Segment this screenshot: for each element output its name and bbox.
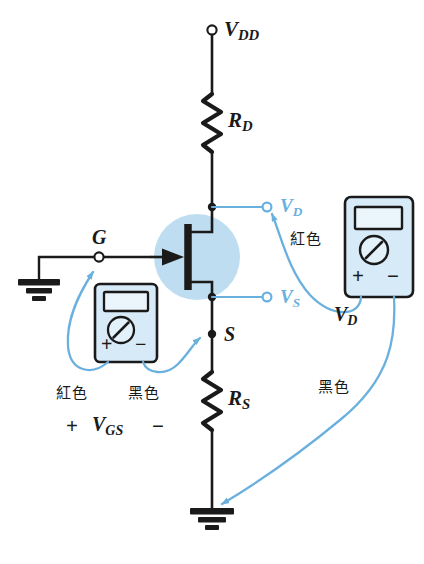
ground-symbol-bottom [190, 508, 234, 530]
gate-meter-plus-text: + [101, 333, 112, 355]
drain-meter-plus: + [352, 264, 364, 289]
label-vgs-reading: VGS [92, 414, 123, 438]
label-vd-reading: VD [334, 304, 357, 328]
figure-canvas: VDD RD RS G S VD VS 紅色 黑色 VD + − + [0, 0, 424, 564]
label-vd-reading-main: V [334, 303, 347, 325]
label-vdd: VDD [224, 19, 259, 43]
vs-probe-terminal[interactable] [263, 293, 272, 302]
vdd-terminal[interactable] [207, 25, 216, 34]
label-vs-probe-sub: S [293, 295, 300, 310]
label-gate: G [92, 227, 106, 247]
gate-meter-plus: + [101, 333, 112, 356]
resistor-rs [203, 372, 221, 430]
vgs-minus-sign: − [152, 414, 164, 439]
label-red-lead-drain-text: 紅色 [290, 230, 322, 248]
label-vgs-reading-main: V [92, 413, 105, 435]
label-source: S [224, 324, 235, 344]
ground-symbol-gate [18, 279, 60, 301]
label-rs: RS [228, 388, 250, 412]
label-rs-main: R [228, 386, 242, 410]
vgs-minus-text: − [152, 414, 164, 438]
label-vd-probe-main: V [280, 195, 293, 216]
label-rd-main: R [228, 108, 242, 132]
label-black-lead-gate: 黑色 [128, 386, 160, 401]
resistor-rd [203, 94, 221, 152]
wire-gate-to-ground [39, 257, 94, 279]
label-vdd-sub: DD [238, 27, 259, 43]
vgs-plus-sign: + [66, 414, 78, 439]
drain-meter-plus-text: + [352, 264, 364, 288]
label-red-lead-drain: 紅色 [290, 232, 322, 247]
label-vgs-reading-sub: GS [105, 423, 123, 438]
gate-meter-minus: − [135, 333, 146, 356]
label-gate-text: G [92, 226, 106, 248]
drain-meter-display [355, 207, 402, 229]
label-vs-probe-main: V [280, 286, 293, 307]
gate-meter-minus-text: − [135, 333, 146, 355]
label-vdd-main: V [224, 17, 238, 41]
gate-meter-display [104, 292, 148, 311]
label-rd: RD [228, 110, 253, 134]
label-vd-probe: VD [280, 196, 302, 218]
label-source-text: S [224, 323, 235, 345]
vgs-plus-text: + [66, 414, 78, 438]
drain-meter-minus-text: − [387, 264, 399, 288]
label-vs-probe: VS [280, 287, 300, 309]
label-rd-sub: D [242, 118, 253, 134]
label-vd-probe-sub: D [293, 204, 303, 219]
label-black-lead-drain: 黑色 [318, 380, 350, 395]
vd-probe-terminal[interactable] [263, 203, 272, 212]
label-red-lead-gate: 紅色 [56, 386, 88, 401]
label-rs-sub: S [242, 396, 250, 412]
gate-terminal[interactable] [94, 252, 103, 261]
label-vd-reading-sub: D [347, 313, 357, 328]
drain-meter-minus: − [387, 264, 399, 289]
label-black-lead-drain-text: 黑色 [318, 378, 350, 396]
label-black-lead-gate-text: 黑色 [128, 384, 160, 402]
label-red-lead-gate-text: 紅色 [56, 384, 88, 402]
